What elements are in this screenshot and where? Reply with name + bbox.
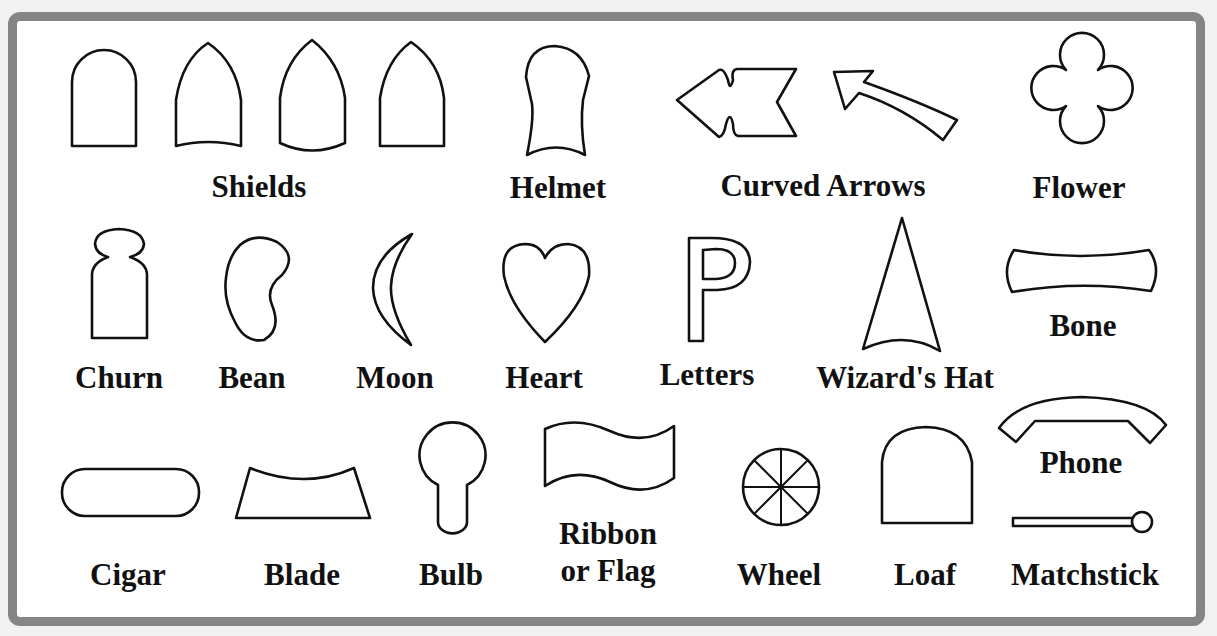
label-helmet: Helmet — [510, 172, 606, 203]
label-ribbon-line2: or Flag — [559, 555, 657, 586]
label-ribbon-or-flag: Ribbon or Flag — [559, 518, 657, 586]
label-curved-arrows: Curved Arrows — [720, 170, 925, 201]
label-matchstick: Matchstick — [1011, 559, 1159, 590]
label-phone: Phone — [1040, 447, 1123, 478]
label-heart: Heart — [505, 362, 582, 393]
flower-lobes-icon — [1030, 33, 1133, 147]
label-bone: Bone — [1049, 310, 1116, 341]
label-cigar: Cigar — [90, 559, 166, 590]
label-wheel: Wheel — [737, 559, 821, 590]
label-ribbon-line1: Ribbon — [559, 518, 657, 549]
label-moon: Moon — [356, 362, 434, 393]
label-bean: Bean — [218, 362, 285, 393]
label-flower: Flower — [1033, 172, 1126, 203]
label-blade: Blade — [264, 559, 340, 590]
label-churn: Churn — [75, 362, 163, 393]
label-loaf: Loaf — [894, 559, 956, 590]
label-shields: Shields — [212, 171, 307, 202]
label-bulb: Bulb — [419, 559, 483, 590]
label-wizards-hat: Wizard's Hat — [816, 362, 994, 393]
label-letters: Letters — [660, 359, 755, 390]
